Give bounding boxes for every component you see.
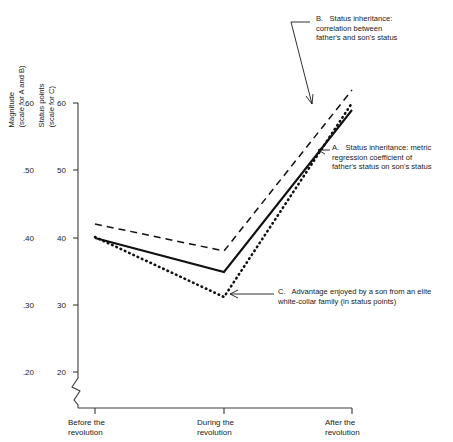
chart-canvas — [0, 0, 453, 442]
y-tick-label-right-50: 50 — [42, 166, 66, 175]
y-tick-label-left-60: .60 — [8, 99, 34, 108]
chart-figure: Magnitude (scale for A and B) Status poi… — [0, 0, 453, 442]
annotation-c-text: C. Advantage enjoyed by a son from an el… — [278, 287, 431, 306]
annotation-a-text: A. Status inheritance: metricregression … — [332, 143, 432, 172]
y-axis-break-icon — [72, 372, 80, 408]
y-axis-left-title: Magnitude — [7, 0, 16, 127]
y-tick-label-left-40: .40 — [8, 234, 34, 243]
y-tick-label-left-50: .50 — [8, 166, 34, 175]
y-axis-right-subtitle: (scale for C) — [47, 0, 56, 127]
series-a-line — [95, 110, 352, 272]
y-tick-label-right-30: 30 — [42, 301, 66, 310]
series-c-line — [95, 103, 352, 297]
y-axis-left-subtitle: (scale for A and B) — [17, 0, 26, 127]
x-tick-label-before: Before therevolution — [68, 418, 105, 438]
y-tick-label-right-40: 40 — [42, 234, 66, 243]
y-tick-label-left-20: .20 — [8, 368, 34, 377]
x-tick-label-after: After therevolution — [325, 418, 360, 438]
y-tick-label-right-20: 20 — [42, 368, 66, 377]
y-tick-label-right-60: 60 — [42, 99, 66, 108]
y-tick-label-left-30: .30 — [8, 301, 34, 310]
x-tick-label-during: During therevolution — [197, 418, 234, 438]
series-b-line — [95, 90, 352, 251]
annotation-b-text: B. Status inheritance:correlation betwee… — [316, 14, 397, 43]
y-axis-right-title: Status points — [37, 0, 46, 127]
annotation-b-leader — [291, 22, 312, 104]
